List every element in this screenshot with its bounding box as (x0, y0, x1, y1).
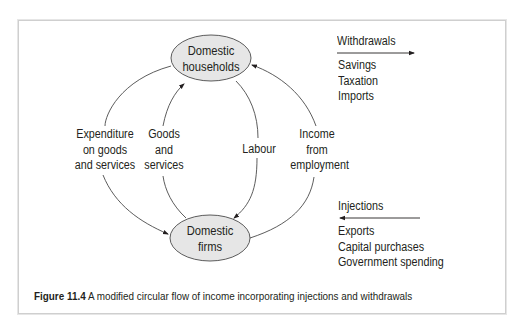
goods-flow-upper (163, 84, 184, 126)
figure-number: Figure 11.4 (34, 290, 86, 302)
income-line1: Income (290, 127, 343, 143)
households-label-line2: households (177, 59, 246, 75)
labour-flow-lower (234, 158, 257, 218)
injections-title: Injections (338, 199, 383, 215)
labour-flow-upper (236, 81, 258, 138)
expenditure-flow-arrow (105, 66, 171, 126)
income-label: Income from employment (290, 127, 343, 174)
withdrawal-item: Savings (338, 58, 378, 74)
injections-list: Exports Capital purchases Government spe… (338, 224, 444, 271)
withdrawal-item: Taxation (338, 74, 378, 90)
goods-flow-lower (163, 176, 186, 218)
withdrawals-list: Savings Taxation Imports (338, 58, 378, 105)
goods-line3: services (143, 158, 186, 174)
caption-text: A modified circular flow of income incor… (86, 290, 413, 302)
figure-caption: Figure 11.4 A modified circular flow of … (34, 290, 412, 302)
expenditure-line1: Expenditure (66, 127, 143, 143)
firms-label-line1: Domestic (176, 223, 245, 239)
firms-label: Domestic firms (176, 223, 245, 255)
households-label: Domestic households (177, 43, 246, 75)
income-line2: from (290, 143, 343, 159)
firms-label-line2: firms (176, 239, 245, 255)
goods-label: Goods and services (143, 127, 186, 174)
labour-line1: Labour (238, 142, 281, 158)
injection-item: Government spending (338, 255, 444, 271)
expenditure-line2: on goods (66, 143, 143, 159)
goods-line2: and (143, 143, 186, 159)
injection-item: Exports (338, 224, 444, 240)
injection-item: Capital purchases (338, 240, 444, 256)
expenditure-label: Expenditure on goods and services (66, 127, 143, 174)
labour-label: Labour (238, 142, 281, 158)
withdrawals-title: Withdrawals (337, 34, 396, 50)
goods-line1: Goods (143, 127, 186, 143)
income-flow-upper (252, 65, 316, 126)
withdrawal-item: Imports (338, 89, 378, 105)
expenditure-line3: and services (66, 158, 143, 174)
income-flow-lower (250, 177, 314, 238)
expenditure-flow-arrow-lower (103, 175, 168, 234)
households-label-line1: Domestic (177, 43, 246, 59)
income-line3: employment (290, 158, 343, 174)
